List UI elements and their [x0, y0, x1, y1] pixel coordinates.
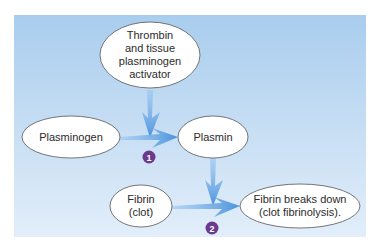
svg-text:2: 2 — [209, 224, 214, 234]
label-fibrin: Fibrin(clot) — [110, 192, 172, 220]
label-plasminogen: Plasminogen — [22, 127, 120, 147]
step-2-badge: 2 — [206, 222, 219, 235]
label-fibrinolysis: Fibrin breaks down(clot fibrinolysis). — [240, 192, 360, 220]
label-plasmin: Plasmin — [178, 127, 248, 147]
svg-text:1: 1 — [146, 153, 151, 163]
step-2-arrow — [172, 158, 240, 217]
label-activator: Thrombinand tissueplasminogenactivator — [100, 24, 200, 86]
step-1-badge: 1 — [143, 151, 156, 164]
step-1-arrow — [120, 90, 178, 148]
